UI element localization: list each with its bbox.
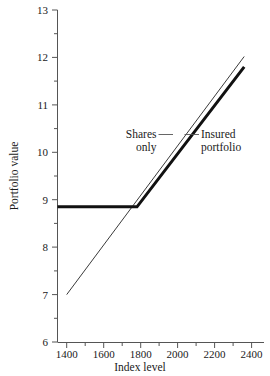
y-tick-label: 9 xyxy=(43,194,49,206)
x-tick-label: 1800 xyxy=(130,348,153,360)
annotation-insured-portfolio-line2: portfolio xyxy=(201,141,241,154)
y-tick-label: 13 xyxy=(37,4,49,16)
y-tick-label: 11 xyxy=(37,99,48,111)
chart-figure: 13 12 11 10 9 8 7 6 1400 xyxy=(0,0,270,376)
annotation-shares-only-line2: only xyxy=(136,141,157,154)
y-tick-label: 8 xyxy=(43,241,49,253)
x-tick-label: 1600 xyxy=(93,348,116,360)
annotation-insured-portfolio-line1: Insured xyxy=(201,128,236,140)
y-tick-label: 7 xyxy=(43,289,49,301)
x-tick-label: 1400 xyxy=(56,348,79,360)
y-tick-label: 12 xyxy=(37,51,48,63)
y-tick-label: 6 xyxy=(43,336,49,348)
annotation-insured-portfolio: Insured portfolio xyxy=(201,128,241,154)
x-tick-label: 2400 xyxy=(241,348,264,360)
y-axis-title: Portfolio value xyxy=(8,142,20,211)
x-axis-title: Index level xyxy=(114,361,165,373)
x-tick-label: 2000 xyxy=(167,348,190,360)
y-tick-label: 10 xyxy=(37,146,49,158)
x-tick-label: 2200 xyxy=(204,348,227,360)
portfolio-value-line-chart: 13 12 11 10 9 8 7 6 1400 xyxy=(0,0,270,376)
annotation-shares-only-line1: Shares xyxy=(126,128,157,140)
